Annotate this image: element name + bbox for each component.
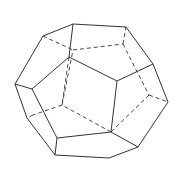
visible-edge bbox=[43, 24, 73, 36]
visible-edge bbox=[138, 102, 168, 147]
visible-edge bbox=[153, 64, 168, 102]
hidden-edge bbox=[43, 36, 73, 50]
visible-edge bbox=[15, 84, 32, 89]
visible-edges bbox=[15, 24, 168, 158]
visible-edge bbox=[69, 57, 117, 81]
visible-edge bbox=[117, 64, 153, 81]
hidden-edge bbox=[73, 44, 123, 50]
visible-edge bbox=[73, 24, 126, 27]
visible-edge bbox=[27, 118, 55, 155]
visible-edge bbox=[109, 147, 138, 158]
hidden-edge bbox=[33, 105, 62, 115]
visible-edge bbox=[15, 84, 27, 118]
visible-edge bbox=[69, 24, 73, 57]
visible-edge bbox=[111, 81, 117, 132]
hidden-edge bbox=[111, 95, 149, 132]
dodecahedron-diagram bbox=[0, 0, 182, 175]
visible-edge bbox=[55, 138, 57, 155]
visible-edge bbox=[57, 132, 111, 138]
visible-edge bbox=[55, 155, 109, 158]
hidden-edges bbox=[27, 27, 168, 132]
hidden-edge bbox=[123, 27, 126, 44]
visible-edge bbox=[32, 57, 69, 89]
hidden-edge bbox=[123, 44, 149, 95]
visible-edge bbox=[111, 132, 138, 147]
hidden-edge bbox=[62, 105, 111, 132]
hidden-edge bbox=[27, 115, 33, 118]
visible-edge bbox=[32, 89, 57, 138]
visible-edge bbox=[15, 36, 43, 84]
